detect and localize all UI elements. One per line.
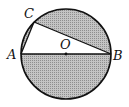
center-point-o [65,53,68,56]
label-o: O [60,37,71,52]
circle-diagram: C A O B [0,0,129,107]
label-a: A [6,47,16,62]
label-c: C [24,6,34,21]
label-b: B [112,48,123,63]
